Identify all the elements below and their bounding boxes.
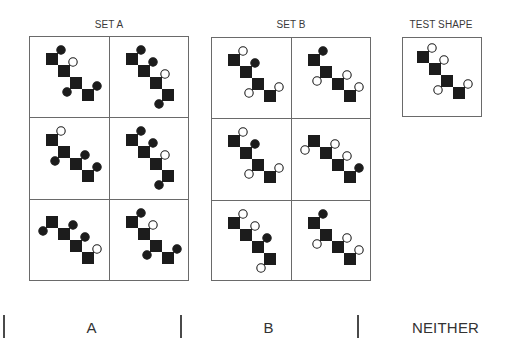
square-icon [320,229,332,241]
square-icon [332,159,344,171]
square-icon [417,51,429,63]
set-b-cell-2 [292,38,371,119]
square-icon [228,217,240,229]
open-circle-icon [301,146,309,154]
set-a-cell-5 [30,200,110,280]
square-icon [58,146,70,158]
square-icon [308,217,320,229]
open-circle-icon [245,170,253,178]
set-a-cell-6 [110,200,189,280]
answer-a-label: A [86,319,96,336]
square-icon [150,158,162,170]
square-icon [228,135,240,147]
open-circle-icon [440,56,448,64]
open-circle-icon [434,86,442,94]
staircase-figure [292,201,376,285]
square-icon [126,53,138,65]
open-circle-icon [69,58,77,66]
open-circle-icon [355,83,363,91]
open-circle-icon [343,234,351,242]
divider [3,315,5,338]
filled-circle-icon [81,233,89,241]
staircase-figure [110,37,194,121]
answer-neither-label: NEITHER [412,319,479,336]
staircase-figure [292,119,376,203]
open-circle-icon [275,164,283,172]
staircase-figure [110,200,194,284]
square-icon [332,241,344,253]
staircase-figure [30,200,114,284]
filled-circle-icon [137,46,145,54]
square-icon [150,240,162,252]
open-circle-icon [343,71,351,79]
filled-circle-icon [137,127,145,135]
set-b-title: SET B [276,19,305,30]
set-b-cell-4 [292,119,371,201]
answer-a-button[interactable]: A [3,314,180,340]
staircase-figure [30,37,114,121]
filled-circle-icon [173,245,181,253]
square-icon [58,228,70,240]
square-icon [162,252,174,264]
filled-circle-icon [93,82,101,90]
square-icon [46,134,58,146]
filled-circle-icon [355,164,363,172]
filled-circle-icon [63,88,71,96]
square-icon [162,170,174,182]
answer-b-button[interactable]: B [180,314,357,340]
square-icon [82,170,94,182]
set-a-title: SET A [95,19,124,30]
filled-circle-icon [155,100,163,108]
square-icon [70,77,82,89]
set-b-cell-1 [212,38,292,119]
square-icon [82,89,94,101]
filled-circle-icon [143,251,151,259]
open-circle-icon [275,83,283,91]
square-icon [228,54,240,66]
staircase-figure [292,38,376,122]
square-icon [453,87,465,99]
filled-circle-icon [149,58,157,66]
open-circle-icon [343,152,351,160]
square-icon [150,77,162,89]
set-b-cell-5 [212,201,292,281]
staircase-figure [401,35,485,119]
square-icon [308,54,320,66]
square-icon [82,252,94,264]
square-icon [264,90,276,102]
filled-circle-icon [69,221,77,229]
set-a-cell-1 [30,37,110,118]
filled-circle-icon [51,157,59,165]
square-icon [126,216,138,228]
staircase-figure [212,201,296,285]
open-circle-icon [161,70,169,78]
square-icon [252,159,264,171]
filled-circle-icon [155,181,163,189]
set-a-cell-2 [110,37,189,118]
square-icon [344,171,356,183]
square-icon [240,66,252,78]
filled-circle-icon [39,227,47,235]
filled-circle-icon [251,59,259,67]
answer-neither-button[interactable]: NEITHER [357,314,510,340]
set-a-cell-3 [30,118,110,200]
staircase-figure [30,118,114,202]
filled-circle-icon [251,140,259,148]
square-icon [429,63,441,75]
filled-circle-icon [319,47,327,55]
filled-circle-icon [149,139,157,147]
square-icon [441,75,453,87]
filled-circle-icon [57,46,65,54]
staircase-figure [212,119,296,203]
square-icon [308,135,320,147]
square-icon [138,228,150,240]
staircase-figure [110,118,194,202]
square-icon [252,78,264,90]
square-icon [344,90,356,102]
test-shape-title: TEST SHAPE [409,19,472,30]
square-icon [240,147,252,159]
square-icon [320,147,332,159]
open-circle-icon [257,264,265,272]
square-icon [162,89,174,101]
answer-b-label: B [263,319,273,336]
